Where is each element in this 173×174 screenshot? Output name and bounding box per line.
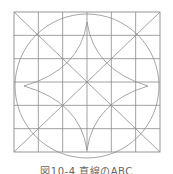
figure-caption: 図10-4 直線のABC [0, 163, 173, 174]
geometric-figure [0, 0, 173, 174]
